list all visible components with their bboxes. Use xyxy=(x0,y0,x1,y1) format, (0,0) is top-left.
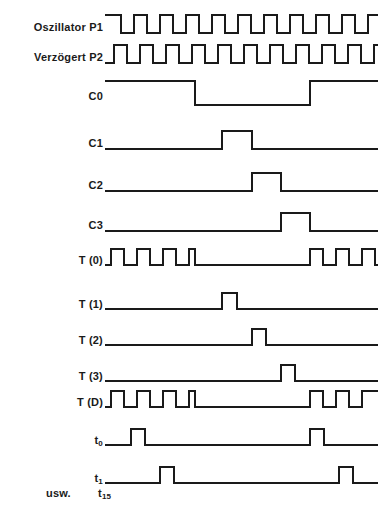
waveform-path xyxy=(105,249,378,265)
waveform-label: T (2) xyxy=(0,335,103,346)
waveform-plot xyxy=(105,390,378,408)
waveform-label-text: T (1) xyxy=(79,298,103,310)
waveform-path xyxy=(105,131,378,149)
t15-label-subscript: 15 xyxy=(102,492,111,501)
waveform-plot xyxy=(105,466,378,484)
waveform-label: C0 xyxy=(0,91,103,102)
timing-diagram: Oszillator P1Verzögert P2C0C1C2C3T (0)T … xyxy=(0,0,378,515)
waveform-row: T (2) xyxy=(0,328,378,350)
waveform-label: Oszillator P1 xyxy=(0,22,103,33)
waveform-path xyxy=(105,329,378,345)
waveform-row: T (D) xyxy=(0,390,378,412)
waveform-path xyxy=(105,365,378,381)
waveform-row: t1 xyxy=(0,466,378,488)
waveform-label: T (1) xyxy=(0,299,103,310)
waveform-path xyxy=(105,45,378,63)
waveform-label: C1 xyxy=(0,138,103,149)
waveform-label-text: C2 xyxy=(89,179,103,191)
waveform-label-text: T (0) xyxy=(79,254,103,266)
waveform-label-subscript: 0 xyxy=(98,439,103,448)
waveform-path xyxy=(105,293,378,309)
waveform-plot xyxy=(105,14,378,34)
waveform-plot xyxy=(105,44,378,64)
waveform-plot xyxy=(105,130,378,150)
waveform-row: C2 xyxy=(0,172,378,196)
waveform-path xyxy=(105,15,378,33)
waveform-label-text: C1 xyxy=(89,137,103,149)
waveform-label-text: C3 xyxy=(89,219,103,231)
waveform-label: t1 xyxy=(0,473,103,484)
waveform-plot xyxy=(105,80,378,106)
waveform-path xyxy=(105,81,378,105)
waveform-label: t0 xyxy=(0,435,103,446)
waveform-plot xyxy=(105,292,378,310)
waveform-plot xyxy=(105,248,378,266)
waveform-row: T (3) xyxy=(0,364,378,386)
waveform-label: T (0) xyxy=(0,255,103,266)
waveform-row: T (0) xyxy=(0,248,378,270)
waveform-path xyxy=(105,429,378,445)
waveform-label-text: Verzögert P2 xyxy=(34,51,103,63)
waveform-row: Verzögert P2 xyxy=(0,44,378,68)
waveform-label-text: T (D) xyxy=(77,396,103,408)
waveform-label: T (D) xyxy=(0,397,103,408)
waveform-plot xyxy=(105,364,378,382)
waveform-row: Oszillator P1 xyxy=(0,14,378,38)
waveform-label: C3 xyxy=(0,220,103,231)
waveform-plot xyxy=(105,328,378,346)
waveform-label: C2 xyxy=(0,180,103,191)
waveform-row: T (1) xyxy=(0,292,378,314)
waveform-path xyxy=(105,391,378,407)
waveform-row: t0 xyxy=(0,428,378,450)
waveform-plot xyxy=(105,172,378,192)
waveform-label-subscript: 1 xyxy=(98,477,103,486)
waveform-path xyxy=(105,467,378,483)
waveform-path xyxy=(105,213,378,231)
waveform-label-text: T (2) xyxy=(79,334,103,346)
waveform-plot xyxy=(105,212,378,232)
waveform-row: C0 xyxy=(0,80,378,110)
waveform-row: C1 xyxy=(0,130,378,154)
waveform-path xyxy=(105,173,378,191)
usw-label: usw. xyxy=(46,487,71,499)
waveform-row: C3 xyxy=(0,212,378,236)
waveform-label-text: T (3) xyxy=(79,370,103,382)
waveform-plot xyxy=(105,428,378,446)
t15-label: t15 xyxy=(98,487,111,499)
waveform-label-text: Oszillator P1 xyxy=(34,21,103,33)
waveform-label: T (3) xyxy=(0,371,103,382)
waveform-label-text: C0 xyxy=(89,90,103,102)
waveform-label: Verzögert P2 xyxy=(0,52,103,63)
